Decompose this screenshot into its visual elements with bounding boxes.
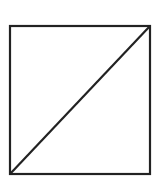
diagram-canvas (0, 0, 155, 184)
diagonal-line (10, 26, 150, 174)
